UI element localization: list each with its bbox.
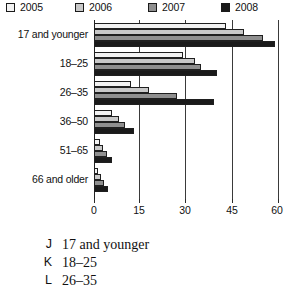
- legend-swatch-2007: [148, 3, 157, 12]
- key-row-j: J 17 and younger: [0, 236, 289, 255]
- tick-label-45: 45: [226, 204, 238, 216]
- tick-label-15: 15: [133, 204, 145, 216]
- tick-mark-15: [139, 199, 140, 203]
- bar-26-35-2008: [94, 99, 214, 105]
- category-label-66-and-older: 66 and older: [32, 174, 88, 185]
- category-label-18-25: 18–25: [60, 58, 88, 69]
- legend-label-2005: 2005: [20, 2, 43, 13]
- category-label-51-65: 51–65: [60, 145, 88, 156]
- key-text-l: 26–35: [62, 272, 97, 289]
- legend-item-2008: 2008: [221, 2, 258, 13]
- series-legend: 2005 2006 2007 2008: [0, 0, 289, 18]
- legend-swatch-2005: [6, 3, 15, 12]
- bar-18-25-2008: [94, 70, 217, 76]
- legend-label-2008: 2008: [235, 2, 258, 13]
- legend-label-2006: 2006: [89, 2, 112, 13]
- category-label-26-35: 26–35: [60, 87, 88, 98]
- category-axis: 17 and younger 18–25 26–35 36–50 51–65 6…: [0, 20, 91, 200]
- bar-66-and-older-2008: [94, 186, 108, 192]
- gridline-15: [139, 20, 140, 200]
- bars-container: [94, 20, 280, 200]
- key-text-k: 18–25: [62, 254, 97, 271]
- legend-swatch-2008: [221, 3, 230, 12]
- bar-51-65-2008: [94, 157, 112, 163]
- key-letter-l: L: [0, 272, 62, 289]
- tick-mark-60: [278, 199, 279, 203]
- tick-label-60: 60: [271, 204, 283, 216]
- tick-label-30: 30: [179, 204, 191, 216]
- legend-item-2006: 2006: [75, 2, 112, 13]
- legend-item-2007: 2007: [148, 2, 185, 13]
- key-text-j: 17 and younger: [62, 236, 149, 253]
- key-letter-j: J: [0, 236, 62, 253]
- tick-label-0: 0: [91, 204, 97, 216]
- category-label-36-50: 36–50: [60, 116, 88, 127]
- tick-mark-30: [185, 199, 186, 203]
- key-row-l: L 26–35: [0, 272, 289, 289]
- gridline-30: [185, 20, 186, 200]
- category-label-17-and-younger: 17 and younger: [18, 29, 88, 40]
- legend-item-2005: 2005: [6, 2, 43, 13]
- legend-swatch-2006: [75, 3, 84, 12]
- gridline-45: [232, 20, 233, 200]
- gridline-60: [278, 20, 279, 200]
- key-row-k: K 18–25: [0, 254, 289, 273]
- answer-key-list: J 17 and younger K 18–25 L 26–35: [0, 236, 289, 277]
- bar-17-and-younger-2008: [94, 41, 275, 47]
- bar-chart-plot: 17 and younger 18–25 26–35 36–50 51–65 6…: [0, 20, 289, 200]
- legend-label-2007: 2007: [162, 2, 185, 13]
- key-letter-k: K: [0, 254, 62, 271]
- bar-36-50-2008: [94, 128, 134, 134]
- tick-mark-45: [232, 199, 233, 203]
- value-axis: 0 15 30 45 60: [0, 199, 289, 221]
- tick-mark-0: [94, 199, 95, 203]
